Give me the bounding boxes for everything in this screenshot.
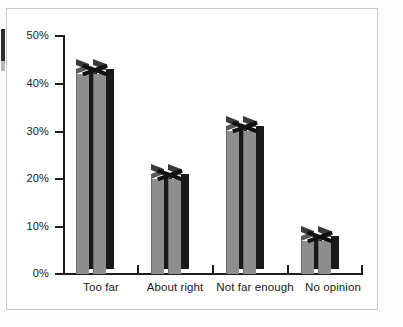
page-background: 50% 40% 30% 20% 10% 0% [0, 0, 403, 327]
bar-top-x-marker [82, 63, 108, 76]
y-axis-label-20: 20% [26, 172, 49, 184]
bar-top-x-marker [307, 230, 333, 243]
bar-chart: 50% 40% 30% 20% 10% 0% [7, 9, 379, 311]
x-tick-4 [361, 265, 363, 274]
y-axis-line [63, 35, 65, 274]
x-axis-label-no-opinion: No opinion [287, 281, 379, 293]
y-axis-label-0: 0% [33, 267, 49, 279]
bar-top-x-marker [232, 120, 258, 133]
y-axis-label-10: 10% [26, 220, 49, 232]
x-tick-2 [212, 265, 214, 274]
y-tick-0 [55, 273, 64, 275]
scan-artifact-mark [1, 29, 5, 61]
y-axis-label-50: 50% [26, 29, 49, 41]
scan-artifact-mark-tail [1, 61, 5, 71]
y-tick-50 [55, 35, 64, 37]
y-axis-label-30: 30% [26, 125, 49, 137]
y-axis-label-40: 40% [26, 77, 49, 89]
y-tick-40 [55, 83, 64, 85]
y-tick-10 [55, 226, 64, 228]
y-tick-30 [55, 131, 64, 133]
chart-panel: 50% 40% 30% 20% 10% 0% [6, 8, 378, 310]
x-tick-3 [287, 265, 289, 274]
y-tick-20 [55, 178, 64, 180]
bar-top-x-marker [157, 168, 183, 181]
x-tick-1 [137, 265, 139, 274]
